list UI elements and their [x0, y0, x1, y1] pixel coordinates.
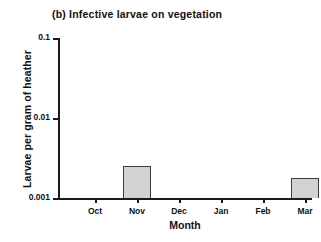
x-tick-label-oct: Oct	[88, 206, 102, 216]
x-tick-feb	[263, 198, 265, 203]
y-tick-label-0: 0.1	[38, 32, 50, 42]
chart-figure: (b) Infective larvae on vegetation Larva…	[0, 0, 321, 242]
y-tick-1: 0.01	[53, 118, 58, 120]
bar-mar	[291, 178, 319, 198]
x-tick-label-feb: Feb	[255, 206, 270, 216]
x-tick-label-mar: Mar	[297, 206, 312, 216]
x-tick-oct	[95, 198, 97, 203]
x-tick-mar	[305, 198, 307, 203]
x-tick-dec	[179, 198, 181, 203]
y-axis-title: Larvae per gram of heather	[21, 29, 33, 209]
y-tick-0: 0.1	[53, 38, 58, 40]
x-tick-nov	[137, 198, 139, 203]
y-tick-label-1: 0.01	[33, 112, 50, 122]
y-tick-2: 0.001	[53, 198, 58, 200]
chart-title: (b) Infective larvae on vegetation	[52, 8, 222, 20]
x-tick-label-jan: Jan	[214, 206, 229, 216]
y-tick-label-2: 0.001	[29, 192, 50, 202]
x-tick-label-nov: Nov	[129, 206, 145, 216]
x-axis-title: Month	[58, 219, 312, 231]
x-tick-jan	[221, 198, 223, 203]
x-tick-label-dec: Dec	[171, 206, 187, 216]
plot-area: 0.1 0.01 0.001 Oct Nov Dec Jan Feb Mar	[58, 38, 312, 198]
bar-nov	[123, 166, 151, 198]
y-axis-spine	[58, 38, 60, 198]
